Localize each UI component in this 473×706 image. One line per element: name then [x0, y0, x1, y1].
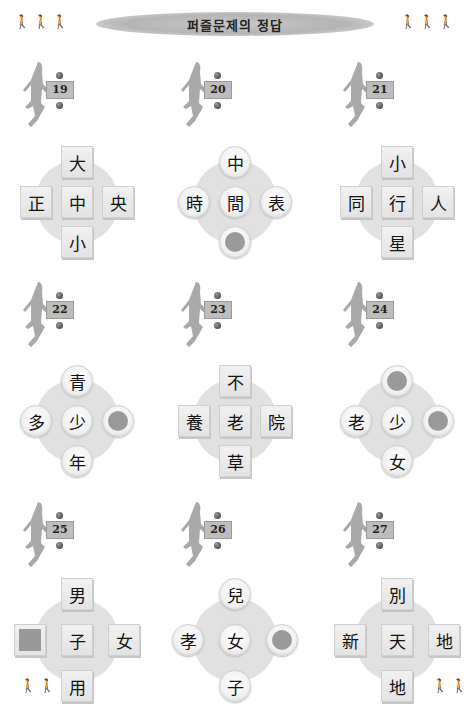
hanja-char: 小 [389, 150, 406, 175]
tile-bottom: 用 [61, 670, 93, 702]
puzzle-number-badge: 24 [366, 301, 394, 319]
blank-marker-icon [225, 232, 245, 252]
decorative-figures-top-right: 🚶🚶🚶 [400, 14, 457, 29]
hanja-char: 央 [110, 190, 127, 215]
hanja-char: 人 [430, 190, 447, 215]
puzzle-27: 27別新天地地 [322, 498, 472, 706]
dot-icon [56, 292, 63, 299]
tile-right [422, 405, 454, 437]
hanja-char: 小 [69, 230, 86, 255]
dot-icon [56, 322, 63, 329]
header-banner: 퍼즐문제의 정답 [96, 12, 374, 36]
tile-bottom: 女 [381, 445, 413, 477]
tile-right: 地 [428, 624, 460, 656]
tile-center: 間 [219, 186, 251, 218]
tile-right [102, 405, 134, 437]
dot-icon [376, 322, 383, 329]
puzzle-22: 22青多少年 [2, 278, 152, 488]
dot-icon [56, 542, 63, 549]
tile-center: 少 [381, 405, 413, 437]
puzzle-number-badge: 26 [204, 521, 232, 539]
dot-icon [56, 512, 63, 519]
tile-bottom: 地 [381, 670, 413, 702]
puzzle-number-badge: 27 [366, 521, 394, 539]
dot-icon [214, 322, 221, 329]
tile-center: 老 [219, 405, 251, 437]
hanja-char: 大 [69, 150, 86, 175]
hanja-char: 子 [227, 674, 244, 699]
tile-left: 養 [178, 405, 210, 437]
dot-icon [376, 72, 383, 79]
tile-top: 小 [381, 146, 413, 178]
dot-icon [56, 72, 63, 79]
hanja-char: 老 [227, 409, 244, 434]
puzzle-number-badge: 25 [46, 521, 74, 539]
tile-right: 央 [102, 186, 134, 218]
hanja-char: 年 [69, 449, 86, 474]
tile-center: 行 [381, 186, 413, 218]
blank-marker-icon [387, 371, 407, 391]
tile-center: 中 [61, 186, 93, 218]
tile-bottom: 小 [61, 226, 93, 258]
tile-bottom: 子 [219, 670, 251, 702]
hanja-char: 正 [28, 190, 45, 215]
dot-icon [376, 292, 383, 299]
tile-bottom: 星 [381, 226, 413, 258]
hanja-char: 天 [389, 628, 406, 653]
hanja-char: 地 [389, 674, 406, 699]
tile-bottom [219, 226, 251, 258]
hanja-char: 青 [69, 369, 86, 394]
puzzle-21: 21小同行人星 [322, 58, 472, 268]
hanja-char: 星 [389, 230, 406, 255]
hanja-char: 女 [227, 628, 244, 653]
tile-top: 青 [61, 365, 93, 397]
decorative-figures-bottom-left: 🚶🚶 [20, 678, 58, 693]
hanja-char: 老 [348, 409, 365, 434]
puzzle-20: 20中時間表 [160, 58, 310, 268]
hanja-char: 子 [69, 628, 86, 653]
hanja-char: 間 [227, 190, 244, 215]
tile-left: 孝 [172, 624, 204, 656]
hanja-char: 別 [389, 582, 406, 607]
tile-top: 別 [381, 578, 413, 610]
tile-right: 院 [260, 405, 292, 437]
puzzle-25: 25男子女用 [2, 498, 152, 706]
tile-right [266, 624, 298, 656]
tile-top: 不 [219, 365, 251, 397]
tile-right: 人 [422, 186, 454, 218]
tile-bottom: 草 [219, 445, 251, 477]
hanja-char: 女 [389, 449, 406, 474]
tile-left: 正 [20, 186, 52, 218]
puzzle-23: 23不養老院草 [160, 278, 310, 488]
hanja-char: 新 [342, 628, 359, 653]
puzzle-number-badge: 19 [46, 81, 74, 99]
dot-icon [56, 102, 63, 109]
tile-left: 新 [334, 624, 366, 656]
hanja-char: 女 [116, 628, 133, 653]
hanja-char: 中 [69, 190, 86, 215]
tile-center: 女 [219, 624, 251, 656]
tile-left: 同 [340, 186, 372, 218]
blank-marker-icon [19, 629, 41, 651]
hanja-char: 養 [186, 409, 203, 434]
hanja-char: 多 [28, 409, 45, 434]
dot-icon [214, 542, 221, 549]
tile-right: 表 [260, 186, 292, 218]
puzzle-number-badge: 23 [204, 301, 232, 319]
tile-top: 大 [61, 146, 93, 178]
puzzle-number-badge: 20 [204, 81, 232, 99]
blank-marker-icon [108, 411, 128, 431]
puzzle-19: 19大正中央小 [2, 58, 152, 268]
hanja-char: 同 [348, 190, 365, 215]
tile-bottom: 年 [61, 445, 93, 477]
tile-left [14, 624, 46, 656]
decorative-figures-bottom-right: 🚶🚶 [432, 678, 470, 693]
dot-icon [214, 72, 221, 79]
hanja-char: 表 [268, 190, 285, 215]
hanja-char: 院 [268, 409, 285, 434]
puzzle-number-badge: 21 [366, 81, 394, 99]
blank-marker-icon [272, 630, 292, 650]
tile-left: 多 [20, 405, 52, 437]
page-title: 퍼즐문제의 정답 [187, 15, 284, 34]
puzzle-24: 24老少女 [322, 278, 472, 488]
